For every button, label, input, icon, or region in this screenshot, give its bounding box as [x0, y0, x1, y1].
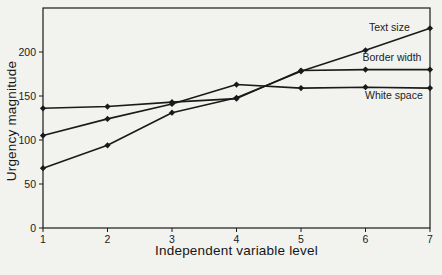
data-point-text-size — [104, 142, 110, 148]
data-point-text-size — [427, 25, 433, 31]
y-tick-label: 50 — [24, 178, 36, 190]
data-point-white-space — [427, 85, 433, 91]
data-point-text-size — [169, 110, 175, 116]
data-point-border-width — [362, 67, 368, 73]
chart: 0501001502001234567Text sizeBorder width… — [0, 0, 442, 275]
series-label-text-size: Text size — [369, 21, 410, 33]
data-point-white-space — [233, 81, 239, 87]
plot-frame — [43, 8, 430, 228]
series-label-border-width: Border width — [362, 51, 421, 63]
data-point-white-space — [298, 85, 304, 91]
data-point-white-space — [104, 116, 110, 122]
x-axis-title: Independent variable level — [43, 243, 430, 258]
data-point-border-width — [40, 105, 46, 111]
scanned-figure-page: 0501001502001234567Text sizeBorder width… — [0, 0, 442, 275]
data-point-white-space — [40, 133, 46, 139]
line-chart-canvas: 0501001502001234567Text sizeBorder width… — [0, 0, 442, 275]
data-point-border-width — [104, 103, 110, 109]
series-label-white-space: White space — [365, 89, 423, 101]
y-tick-label: 0 — [30, 222, 36, 234]
data-point-border-width — [427, 67, 433, 73]
y-axis-title: Urgency magnitude — [4, 11, 22, 231]
data-point-text-size — [40, 165, 46, 171]
